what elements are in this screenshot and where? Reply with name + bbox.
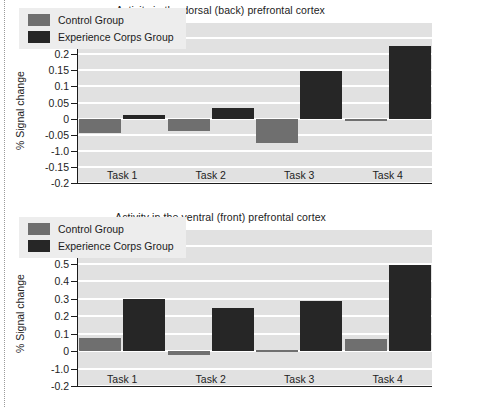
gridline xyxy=(78,85,432,87)
gridline xyxy=(78,53,432,55)
bar-ventral-task-3-control xyxy=(256,350,298,352)
y-axis-tick xyxy=(71,264,78,265)
y-axis-tick xyxy=(71,119,78,120)
y-axis-tick xyxy=(71,369,78,370)
bar-dorsal-task-3-experience xyxy=(300,71,342,119)
bar-dorsal-task-1-experience xyxy=(123,115,165,119)
y-axis-title-ventral: % Signal change xyxy=(14,274,26,353)
x-axis-label-task-1: Task 1 xyxy=(107,169,137,181)
gridline xyxy=(78,263,432,265)
bar-dorsal-task-1-control xyxy=(79,119,121,133)
y-axis-tick xyxy=(71,183,78,184)
legend-label-control: Control Group xyxy=(58,223,124,235)
legend-label-experience: Experience Corps Group xyxy=(58,240,174,252)
legend-ventral: Control Group Experience Corps Group xyxy=(19,217,186,258)
y-axis-tick xyxy=(71,54,78,55)
y-axis-tick xyxy=(71,351,78,352)
chart-ventral: Activity in the ventral (front) prefront… xyxy=(0,205,441,407)
bar-ventral-task-4-experience xyxy=(389,265,431,351)
gridline xyxy=(78,134,432,136)
y-axis-tick xyxy=(71,103,78,104)
y-axis-tick-label: 0.1 xyxy=(54,328,69,340)
gridline xyxy=(78,166,432,168)
y-axis-tick xyxy=(71,70,78,71)
gridline xyxy=(78,150,432,152)
y-axis-tick-label: 0.5 xyxy=(54,258,69,270)
x-axis-label-task-1: Task 1 xyxy=(107,373,137,385)
x-axis-label-task-4: Task 4 xyxy=(373,373,403,385)
y-axis-tick-label: 0 xyxy=(63,113,69,125)
bar-ventral-task-1-control xyxy=(79,338,121,351)
bar-dorsal-task-4-experience xyxy=(389,46,431,118)
y-axis-tick xyxy=(71,151,78,152)
y-axis-tick xyxy=(71,135,78,136)
x-axis-label-task-3: Task 3 xyxy=(284,169,314,181)
gridline xyxy=(78,385,432,386)
y-axis-tick-label: 0.05 xyxy=(49,97,69,109)
x-axis-label-task-2: Task 2 xyxy=(196,373,226,385)
y-axis-tick-label: 0.2 xyxy=(54,310,69,322)
gridline xyxy=(78,182,432,183)
legend-label-control: Control Group xyxy=(58,14,124,26)
gridline xyxy=(78,368,432,370)
y-axis-tick-label: -0.05 xyxy=(45,129,69,141)
bar-ventral-task-3-experience xyxy=(300,301,342,351)
y-axis-tick-label: 0.4 xyxy=(54,275,69,287)
y-axis-tick xyxy=(71,86,78,87)
bar-dorsal-task-2-control xyxy=(168,119,210,132)
y-axis-tick-label: -0.2 xyxy=(51,380,69,392)
chart-dorsal: Activity in the dorsal (back) prefrontal… xyxy=(0,0,441,205)
bar-ventral-task-2-experience xyxy=(212,308,254,351)
legend-swatch-experience-icon xyxy=(28,31,50,43)
legend-item-control: Control Group xyxy=(28,223,174,235)
y-axis-tick-label: -0.2 xyxy=(51,177,69,189)
bar-dorsal-task-2-experience xyxy=(212,108,254,119)
figure-page: Activity in the dorsal (back) prefrontal… xyxy=(0,0,491,407)
legend-item-control: Control Group xyxy=(28,14,174,26)
y-axis-tick xyxy=(71,299,78,300)
y-axis-tick-label: -0.15 xyxy=(45,161,69,173)
bar-ventral-task-2-control xyxy=(168,351,210,354)
bar-dorsal-task-3-control xyxy=(256,119,298,143)
y-axis-tick xyxy=(71,386,78,387)
credit-block: © From Carlson, M. C., et al. Evidence f… xyxy=(441,0,491,407)
legend-swatch-control-icon xyxy=(28,14,50,26)
legend-item-experience: Experience Corps Group xyxy=(28,240,174,252)
y-axis-tick-label: -1.0 xyxy=(51,363,69,375)
y-axis-tick xyxy=(71,281,78,282)
bar-ventral-task-4-control xyxy=(345,339,387,351)
legend-swatch-control-icon xyxy=(28,223,50,235)
legend-label-experience: Experience Corps Group xyxy=(58,31,174,43)
x-axis-label-task-4: Task 4 xyxy=(373,169,403,181)
legend-dorsal: Control Group Experience Corps Group xyxy=(19,8,186,49)
gridline xyxy=(78,102,432,104)
y-axis-tick-label: 0.3 xyxy=(54,293,69,305)
gridline xyxy=(78,69,432,71)
x-axis-label-task-3: Task 3 xyxy=(284,373,314,385)
y-axis-tick-label: -1.0 xyxy=(51,145,69,157)
y-axis-tick xyxy=(71,316,78,317)
legend-item-experience: Experience Corps Group xyxy=(28,31,174,43)
y-axis-tick-label: 0.2 xyxy=(54,48,69,60)
y-axis-tick xyxy=(71,334,78,335)
y-axis-tick-label: 0 xyxy=(63,345,69,357)
y-axis-tick-label: 0.15 xyxy=(49,64,69,76)
legend-swatch-experience-icon xyxy=(28,240,50,252)
y-axis-tick xyxy=(71,167,78,168)
bar-dorsal-task-4-control xyxy=(345,119,387,121)
y-axis-title-dorsal: % Signal change xyxy=(14,71,26,150)
gridline xyxy=(78,280,432,282)
x-axis-label-task-2: Task 2 xyxy=(196,169,226,181)
y-axis-tick-label: 0.1 xyxy=(54,80,69,92)
bar-ventral-task-1-experience xyxy=(123,299,165,351)
